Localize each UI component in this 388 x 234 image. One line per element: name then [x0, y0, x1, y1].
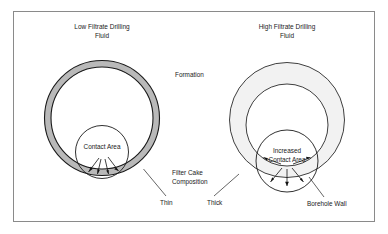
thin-label: Thin	[160, 199, 173, 206]
borehole-wall-leader-line	[309, 177, 324, 197]
diagram-canvas: Low Filtrate Drilling Fluid Contact Area	[0, 0, 388, 234]
thick-label: Thick	[207, 199, 223, 206]
formation-label: Formation	[175, 71, 204, 78]
left-borehole-inner-circle	[51, 67, 153, 169]
borehole-wall-label: Borehole Wall	[307, 200, 347, 207]
left-panel-group: Low Filtrate Drilling Fluid Contact Area	[45, 23, 160, 179]
filter-cake-label-line1: Filter Cake	[172, 169, 203, 176]
left-title-line1: Low Filtrate Drilling	[74, 23, 130, 31]
left-contact-area-label: Contact Area	[84, 143, 121, 150]
right-contact-area-label-line1: Increased	[273, 147, 302, 154]
right-panel-group: High Filtrate Drilling Fluid Increased C…	[230, 23, 345, 192]
filter-cake-label-line2: Composition	[172, 178, 208, 186]
diagram-figure: Low Filtrate Drilling Fluid Contact Area	[0, 0, 388, 234]
thick-leader-line	[214, 174, 239, 196]
thin-leader-line	[144, 169, 167, 196]
left-title-line2: Fluid	[95, 32, 109, 39]
right-title-line1: High Filtrate Drilling	[259, 23, 316, 31]
right-title-line2: Fluid	[280, 32, 294, 39]
right-contact-area-label-line2: Contact Area	[269, 156, 306, 163]
